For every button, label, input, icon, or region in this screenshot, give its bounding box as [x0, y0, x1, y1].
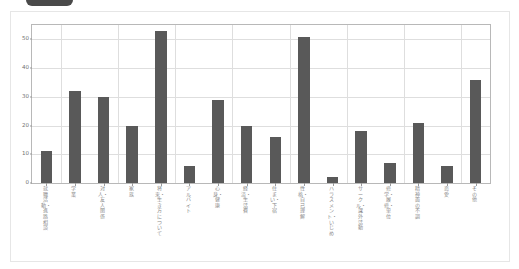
x-axis-tick-label: 住まい・下宿	[270, 186, 279, 214]
bar[interactable]	[126, 126, 137, 183]
bar[interactable]	[98, 97, 109, 183]
bar[interactable]	[41, 151, 52, 183]
screenshot-root: 01020304050 就職活動・進路相談学業対人・友人関係家族将来・生き方につ…	[0, 0, 519, 269]
bar[interactable]	[69, 91, 80, 183]
y-axis-tick-label: 20	[22, 123, 29, 129]
chart-plot-wrapper: 01020304050 就職活動・進路相談学業対人・友人関係家族将来・生き方につ…	[11, 12, 511, 263]
bar[interactable]	[155, 31, 166, 183]
bar[interactable]	[241, 126, 252, 183]
x-axis-tick-label: 家族	[127, 186, 136, 197]
bar[interactable]	[413, 123, 424, 183]
x-axis-labels: 就職活動・進路相談学業対人・友人関係家族将来・生き方についてアルバイト心身・健康…	[31, 185, 491, 261]
x-axis-tick-label: 恋愛	[442, 186, 451, 197]
x-axis-tick-label: アルバイト	[184, 186, 193, 214]
bar[interactable]	[355, 131, 366, 183]
x-axis-tick-label: 性格・自己理解	[298, 186, 307, 220]
x-axis-tick-label: その他	[470, 186, 479, 203]
x-axis-tick-label: 修学・履修・単位	[384, 186, 393, 220]
bar[interactable]	[470, 80, 481, 183]
bar-series	[32, 25, 490, 183]
y-axis-tick-label: 50	[22, 37, 29, 43]
x-axis-tick-label: ハラスメント・いじめ	[327, 186, 336, 236]
y-axis-tick-label: 10	[22, 152, 29, 158]
x-axis-tick-label: 将来・生き方について	[155, 186, 164, 236]
top-pill-button[interactable]	[26, 0, 73, 6]
bar[interactable]	[441, 166, 452, 183]
x-axis-tick-label: 精神面の不調	[413, 186, 422, 220]
y-axis-tick-label: 30	[22, 94, 29, 100]
bar-chart-plot-area: 01020304050	[31, 24, 491, 184]
x-axis-tick-label: 対人・友人関係	[98, 186, 107, 220]
bar[interactable]	[212, 100, 223, 183]
chart-card: 01020304050 就職活動・進路相談学業対人・友人関係家族将来・生き方につ…	[10, 11, 510, 262]
y-axis-tick-label: 0	[26, 180, 30, 186]
bar[interactable]	[384, 163, 395, 183]
x-axis-tick-label: 学業	[69, 186, 78, 197]
x-axis-tick-label: 経済・生活費	[241, 186, 250, 214]
bar[interactable]	[184, 166, 195, 183]
bar[interactable]	[327, 177, 338, 183]
bar[interactable]	[298, 37, 309, 184]
x-axis-tick-label: 心身・健康	[213, 186, 222, 208]
x-axis-tick-label: 就職活動・進路相談	[41, 186, 50, 231]
x-axis-tick-label: サークル・課外活動	[356, 186, 365, 231]
y-axis-tick-label: 40	[22, 65, 29, 71]
bar[interactable]	[270, 137, 281, 183]
